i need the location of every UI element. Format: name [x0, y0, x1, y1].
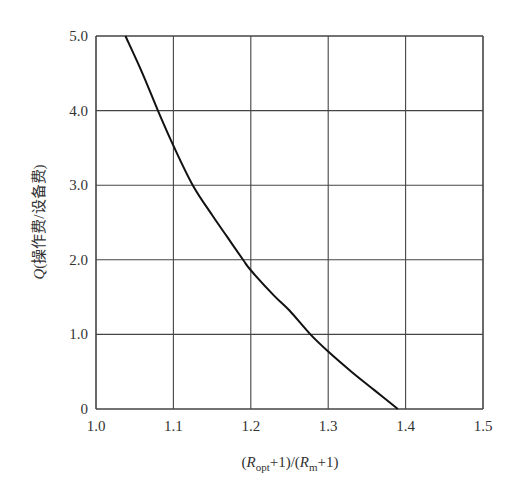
x-tick-label: 1.4	[396, 418, 415, 434]
y-tick-label: 3.0	[69, 177, 88, 193]
y-axis-ticks: 01.02.03.04.05.0	[69, 28, 88, 417]
x-tick-label: 1.5	[474, 418, 493, 434]
grid	[96, 36, 483, 409]
x-tick-label: 1.1	[164, 418, 183, 434]
y-tick-label: 0	[81, 401, 89, 417]
y-tick-label: 1.0	[69, 326, 88, 342]
x-axis-label: (Ropt+1)/(Rm+1)	[241, 454, 338, 473]
x-tick-label: 1.2	[241, 418, 260, 434]
y-axis-label: Q(操作费/设备费)	[31, 164, 48, 279]
x-tick-label: 1.0	[87, 418, 106, 434]
data-line	[125, 36, 397, 409]
x-axis-ticks: 1.01.11.21.31.41.5	[87, 418, 493, 434]
y-tick-label: 5.0	[69, 28, 88, 44]
y-tick-label: 2.0	[69, 252, 88, 268]
chart: 1.01.11.21.31.41.5 01.02.03.04.05.0 (Rop…	[0, 0, 524, 494]
x-tick-label: 1.3	[319, 418, 338, 434]
y-tick-label: 4.0	[69, 103, 88, 119]
